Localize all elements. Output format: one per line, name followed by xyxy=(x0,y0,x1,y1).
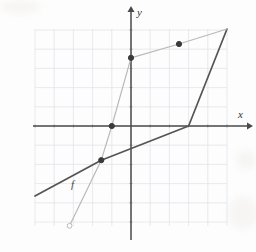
coordinate-plot xyxy=(0,0,256,252)
function-label-f: f xyxy=(71,178,74,190)
graph-figure: y x f xyxy=(0,0,256,252)
axes xyxy=(33,6,253,240)
y-axis-label: y xyxy=(137,6,142,18)
x-axis-label: x xyxy=(238,108,243,120)
